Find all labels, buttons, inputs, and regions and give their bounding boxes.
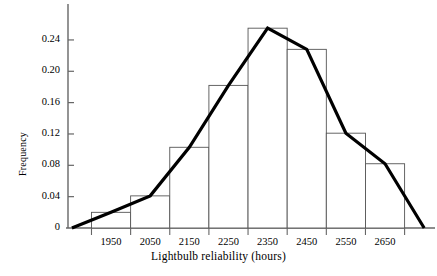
- y-tick-label: 0.20: [26, 64, 60, 75]
- x-tick-label: 2050: [130, 236, 170, 247]
- x-tick-label: 1950: [91, 236, 131, 247]
- histogram-bar: [248, 28, 287, 228]
- histogram-bar: [91, 212, 130, 228]
- x-tick-label: 2650: [365, 236, 405, 247]
- histogram-chart: Frequency Lightbulb reliability (hours) …: [0, 0, 437, 276]
- plot-area: [0, 0, 437, 276]
- y-tick-label: 0: [26, 221, 60, 232]
- x-tick-label: 2550: [326, 236, 366, 247]
- x-tick-label: 2150: [169, 236, 209, 247]
- y-tick-label: 0.24: [26, 33, 60, 44]
- y-tick-label: 0.08: [26, 158, 60, 169]
- y-tick-label: 0.04: [26, 190, 60, 201]
- x-axis-title: Lightbulb reliability (hours): [0, 250, 437, 262]
- histogram-bar: [170, 147, 209, 228]
- histogram-bar: [326, 133, 365, 228]
- x-tick-label: 2250: [208, 236, 248, 247]
- x-tick-label: 2350: [248, 236, 288, 247]
- y-tick-label: 0.16: [26, 96, 60, 107]
- x-tick-label: 2450: [287, 236, 327, 247]
- histogram-bar: [365, 164, 404, 228]
- y-tick-label: 0.12: [26, 127, 60, 138]
